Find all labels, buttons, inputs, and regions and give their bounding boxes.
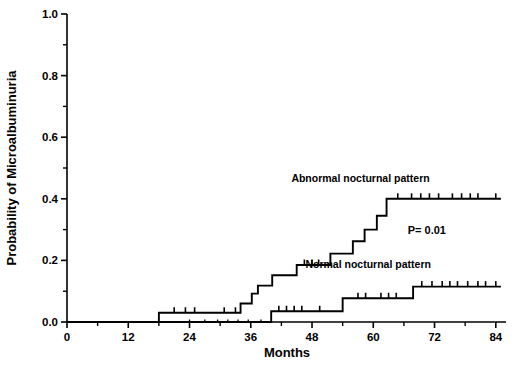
y-tick-label: 1.0 xyxy=(42,8,58,20)
annotation-p-value: P= 0.01 xyxy=(408,224,446,236)
annotation-layer: P= 0.01Abnormal nocturnal patternNormal … xyxy=(291,172,446,270)
x-axis-tick-labels: 012243648607284 xyxy=(64,331,503,343)
y-tick-label: 0.6 xyxy=(42,131,58,143)
x-tick-label: 84 xyxy=(489,331,502,343)
x-tick-label: 60 xyxy=(367,331,380,343)
x-tick-label: 72 xyxy=(428,331,441,343)
x-axis-group: 012243648607284 xyxy=(64,322,506,343)
x-axis-title: Months xyxy=(264,345,310,360)
x-tick-label: 24 xyxy=(183,331,196,343)
y-tick-label: 0.2 xyxy=(42,254,58,266)
y-axis-group: 0.00.20.40.60.81.0 xyxy=(42,8,67,328)
y-tick-label: 0.4 xyxy=(42,193,59,205)
y-axis-tick-labels: 0.00.20.40.60.81.0 xyxy=(42,8,59,328)
series-normal xyxy=(67,281,501,322)
kaplan-meier-chart: 0.00.20.40.60.81.0 012243648607284 Month… xyxy=(0,0,514,365)
x-tick-label: 36 xyxy=(244,331,257,343)
step-curve xyxy=(67,287,501,322)
x-tick-label: 0 xyxy=(64,331,70,343)
y-axis-title: Probability of Microalbuminuria xyxy=(4,70,19,266)
annotation-abnormal-series-label: Abnormal nocturnal pattern xyxy=(291,172,429,184)
x-tick-label: 48 xyxy=(306,331,319,343)
series-layer xyxy=(67,193,501,322)
chart-svg: 0.00.20.40.60.81.0 012243648607284 Month… xyxy=(0,0,514,365)
x-tick-label: 12 xyxy=(122,331,135,343)
annotation-normal-series-label: Normal nocturnal pattern xyxy=(305,258,430,270)
y-tick-label: 0.8 xyxy=(42,70,59,82)
y-tick-label: 0.0 xyxy=(42,316,58,328)
